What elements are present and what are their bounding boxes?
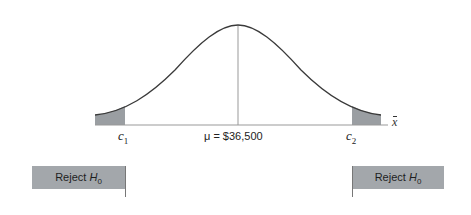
critical-value-c2: c2 [346, 128, 356, 146]
x-bar-axis-label: x [392, 115, 397, 130]
mean-label: μ = $36,500 [204, 130, 263, 142]
right-boundary-tick [352, 166, 353, 197]
reject-region-left: Reject H0 [32, 166, 125, 189]
reject-region-right: Reject H0 [352, 166, 444, 189]
left-boundary-tick [125, 166, 126, 197]
critical-value-c1: c1 [118, 128, 128, 146]
